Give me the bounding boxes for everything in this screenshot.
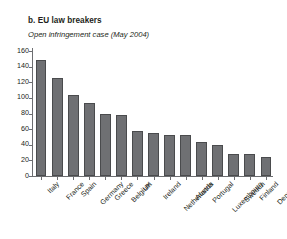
bar	[228, 154, 239, 176]
bar	[212, 145, 223, 176]
bar	[100, 114, 111, 176]
bar	[180, 135, 191, 176]
plot-area: 020406080100120140160	[32, 51, 273, 176]
figure-panel: b. EU law breakers Open infringement cas…	[0, 0, 287, 239]
x-tick-mark	[137, 176, 138, 180]
x-tick-mark	[218, 176, 219, 180]
x-tick-mark	[186, 176, 187, 180]
x-tick-mark	[121, 176, 122, 180]
bar	[36, 60, 47, 176]
x-tick-mark	[170, 176, 171, 180]
x-tick-label: Italy	[47, 181, 61, 195]
bar	[148, 133, 159, 176]
figure-subtitle: Open infringement case (May 2004)	[28, 31, 149, 39]
bar	[84, 103, 95, 176]
y-tick-label: 60	[21, 125, 29, 132]
x-tick-mark	[250, 176, 251, 180]
x-tick-mark	[234, 176, 235, 180]
y-tick-label: 160	[17, 47, 29, 54]
x-tick-mark	[57, 176, 58, 180]
y-tick-label: 0	[25, 172, 29, 179]
x-tick-label: Portugal	[211, 181, 235, 205]
bar	[164, 135, 175, 176]
bar	[244, 154, 255, 176]
x-tick-label: Ireland	[162, 181, 182, 201]
y-tick-label: 100	[17, 93, 29, 100]
x-tick-label-text: Ireland	[162, 181, 182, 201]
x-axis-line	[32, 176, 273, 177]
y-tick-mark	[29, 176, 33, 177]
y-tick-label: 80	[21, 109, 29, 116]
figure-title: b. EU law breakers	[28, 17, 102, 25]
x-tick-mark	[266, 176, 267, 180]
x-tick-mark	[154, 176, 155, 180]
x-axis-labels: ItalyFranceSpainGermanyGreeceBelgiumUKIr…	[32, 181, 277, 239]
x-tick-label-text: Portugal	[211, 181, 235, 205]
bar	[52, 78, 63, 176]
x-tick-mark	[202, 176, 203, 180]
x-tick-mark	[105, 176, 106, 180]
bar	[196, 142, 207, 176]
y-tick-label: 140	[17, 62, 29, 69]
bar	[132, 131, 143, 176]
y-tick-label: 20	[21, 156, 29, 163]
x-tick-label-text: Italy	[47, 181, 61, 195]
bar	[261, 157, 272, 176]
bar-series	[33, 51, 273, 176]
y-tick-label: 40	[21, 140, 29, 147]
y-tick-label: 120	[17, 78, 29, 85]
bar	[116, 115, 127, 176]
x-tick-mark	[89, 176, 90, 180]
x-tick-mark	[41, 176, 42, 180]
bar	[68, 95, 79, 176]
x-tick-mark	[73, 176, 74, 180]
